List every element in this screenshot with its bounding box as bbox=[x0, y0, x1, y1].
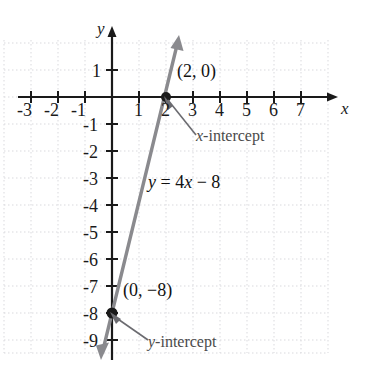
x-axis-name-label: x bbox=[341, 100, 349, 117]
x-intercept-point-label: (2, 0) bbox=[177, 62, 216, 80]
x-tick-label-5: 5 bbox=[242, 101, 251, 119]
y-tick-label--7: -7 bbox=[83, 278, 98, 296]
y-tick-label-1: 1 bbox=[92, 62, 101, 80]
x-tick-label-7: 7 bbox=[296, 101, 305, 119]
equation-minus-sign: − bbox=[197, 172, 207, 192]
x-tick-label-4: 4 bbox=[215, 101, 224, 119]
equation-coefficient: 4 bbox=[175, 172, 184, 192]
y-intercept-point-label: (0, −8) bbox=[123, 281, 172, 299]
x-tick-label-2: 2 bbox=[161, 101, 170, 119]
x-axis bbox=[18, 93, 338, 102]
y-intercept-caption: y-intercept bbox=[148, 334, 216, 350]
y-tick-label--3: -3 bbox=[83, 170, 98, 188]
x-tick-label-6: 6 bbox=[269, 101, 278, 119]
y-tick-label--6: -6 bbox=[83, 251, 98, 269]
x-tick-label-1: 1 bbox=[134, 101, 143, 119]
equation-label: y = 4x − 8 bbox=[148, 173, 220, 191]
y-tick-label--2: -2 bbox=[83, 143, 98, 161]
x-tick-label--2: -2 bbox=[44, 101, 59, 119]
equation-equals: = bbox=[161, 172, 171, 192]
x-intercept-caption: x-intercept bbox=[196, 128, 264, 144]
equation-lhs: y bbox=[148, 172, 156, 192]
x-tick-label-3: 3 bbox=[188, 101, 197, 119]
y-tick-label--1: -1 bbox=[83, 116, 98, 134]
x-tick-label--3: -3 bbox=[17, 101, 32, 119]
equation-constant: 8 bbox=[211, 172, 220, 192]
y-tick-label--8: -8 bbox=[83, 305, 98, 323]
graph-figure: -3 -2 -1 1 2 3 4 5 6 7 1 -1 -2 -3 -4 -5 … bbox=[0, 0, 367, 371]
y-intercept-leader-line bbox=[115, 317, 148, 340]
x-intercept-caption-text: -intercept bbox=[203, 127, 264, 144]
y-tick-label--4: -4 bbox=[83, 197, 98, 215]
equation-variable: x bbox=[184, 172, 192, 192]
y-intercept-caption-text: -intercept bbox=[155, 333, 216, 350]
y-tick-label--9: -9 bbox=[83, 332, 98, 350]
y-axis-name-label: y bbox=[97, 20, 105, 37]
y-tick-label--5: -5 bbox=[83, 224, 98, 242]
